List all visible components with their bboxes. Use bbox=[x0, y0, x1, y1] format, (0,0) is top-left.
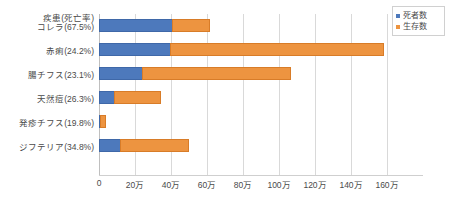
bar-row[interactable]: 腸チフス(23.1%) bbox=[0, 62, 451, 86]
bar-segment-survivors[interactable] bbox=[170, 43, 384, 56]
stacked-bar[interactable] bbox=[99, 19, 210, 32]
category-label: ジフテリア(34.8%) bbox=[0, 140, 94, 152]
chart-legend: 死者数生存数 bbox=[392, 6, 445, 36]
axis-baseline bbox=[99, 175, 423, 176]
stacked-bar-chart: 疾患(死亡率) コレラ(67.5%)赤痢(24.2%)腸チフス(23.1%)天然… bbox=[0, 0, 451, 209]
bar-segment-survivors[interactable] bbox=[114, 91, 161, 104]
bar-row[interactable]: 赤痢(24.2%) bbox=[0, 38, 451, 62]
bar-segment-deaths[interactable] bbox=[99, 91, 115, 104]
category-label: 発疹チフス(19.8%) bbox=[0, 116, 94, 128]
bar-segment-deaths[interactable] bbox=[99, 67, 143, 80]
stacked-bar[interactable] bbox=[99, 115, 106, 128]
stacked-bar[interactable] bbox=[99, 139, 189, 152]
x-tick-label: 160万 bbox=[357, 178, 417, 190]
bar-segment-survivors[interactable] bbox=[120, 139, 189, 152]
stacked-bar[interactable] bbox=[99, 43, 384, 56]
category-label: 赤痢(24.2%) bbox=[0, 44, 94, 56]
bar-segment-deaths[interactable] bbox=[99, 139, 121, 152]
stacked-bar[interactable] bbox=[99, 91, 161, 104]
bar-row[interactable]: コレラ(67.5%) bbox=[0, 14, 451, 38]
legend-label: 死者数 bbox=[403, 10, 427, 21]
bar-segment-survivors[interactable] bbox=[100, 115, 106, 128]
bar-segment-deaths[interactable] bbox=[99, 43, 171, 56]
bar-row[interactable]: ジフテリア(34.8%) bbox=[0, 134, 451, 158]
legend-label: 生存数 bbox=[403, 21, 427, 32]
legend-swatch-icon bbox=[396, 25, 400, 29]
legend-item-deaths[interactable]: 死者数 bbox=[396, 10, 442, 21]
bar-segment-deaths[interactable] bbox=[99, 19, 173, 32]
bar-row[interactable]: 発疹チフス(19.8%) bbox=[0, 110, 451, 134]
stacked-bar[interactable] bbox=[99, 67, 291, 80]
legend-item-survivors[interactable]: 生存数 bbox=[396, 21, 442, 32]
bar-row[interactable]: 天然痘(26.3%) bbox=[0, 86, 451, 110]
category-label: 腸チフス(23.1%) bbox=[0, 68, 94, 80]
bar-segment-survivors[interactable] bbox=[172, 19, 210, 32]
category-label: コレラ(67.5%) bbox=[0, 20, 94, 32]
category-label: 天然痘(26.3%) bbox=[0, 92, 94, 104]
bar-segment-survivors[interactable] bbox=[142, 67, 291, 80]
legend-swatch-icon bbox=[396, 14, 400, 18]
